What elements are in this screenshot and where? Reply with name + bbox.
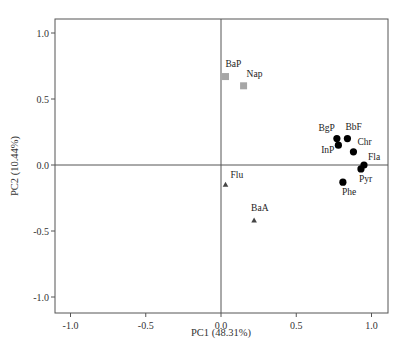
x-tick-label: 1.0	[365, 320, 378, 331]
x-tick-label: -0.5	[138, 320, 154, 331]
point-label: Chr	[357, 137, 372, 147]
x-tick-label: 0.5	[290, 320, 303, 331]
point-label: InP	[321, 145, 334, 155]
square-marker-icon	[240, 82, 247, 89]
circle-marker-icon	[357, 165, 364, 172]
y-tick-label: 1.0	[37, 28, 50, 39]
data-point-nap: Nap	[240, 69, 263, 90]
y-tick-label: -1.0	[33, 292, 49, 303]
y-tick-label: -0.5	[33, 226, 49, 237]
data-point-flu: Flu	[223, 170, 244, 187]
x-tick-label: -1.0	[63, 320, 79, 331]
point-label: Phe	[342, 187, 356, 197]
circle-marker-icon	[339, 179, 346, 186]
data-point-fla: Fla	[360, 152, 381, 169]
square-marker-icon	[222, 73, 229, 80]
circle-marker-icon	[344, 135, 351, 142]
reference-lines	[55, 19, 388, 313]
data-point-baa: BaA	[251, 203, 269, 222]
point-label: BaA	[251, 203, 269, 213]
point-label: Nap	[247, 69, 263, 79]
x-axis-title: PC1 (48.31%)	[191, 327, 252, 339]
y-axis-title: PC2 (10.44%)	[9, 135, 21, 196]
point-label: BgP	[319, 123, 335, 133]
y-tick-label: 0.5	[37, 94, 50, 105]
data-points: BaPNapBgPBbFInPChrFlaPyrPheFluBaA	[222, 59, 381, 223]
point-label: Fla	[368, 152, 381, 162]
point-label: Pyr	[359, 174, 373, 184]
data-point-phe: Phe	[339, 179, 356, 198]
circle-marker-icon	[335, 142, 342, 149]
triangle-marker-icon	[223, 182, 229, 187]
pca-scatter-chart: -1.0-0.50.00.51.0 -1.0-0.50.00.51.0 BaPN…	[0, 0, 410, 360]
point-label: BaP	[226, 59, 242, 69]
data-point-bgp: BgP	[319, 123, 341, 143]
y-axis-ticks: -1.0-0.50.00.51.0	[33, 28, 55, 303]
y-tick-label: 0.0	[37, 160, 50, 171]
triangle-marker-icon	[251, 217, 257, 222]
circle-marker-icon	[333, 135, 340, 142]
data-point-bap: BaP	[222, 59, 241, 81]
point-label: Flu	[231, 170, 244, 180]
circle-marker-icon	[350, 148, 357, 155]
point-label: BbF	[345, 122, 361, 132]
data-point-inp: InP	[321, 142, 342, 156]
